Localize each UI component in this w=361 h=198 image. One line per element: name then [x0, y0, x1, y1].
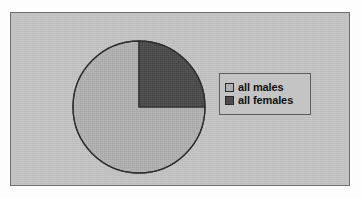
legend-label-all-males: all males: [238, 82, 284, 93]
chart-legend: all males all females: [219, 73, 311, 115]
legend-item-all-females[interactable]: all females: [225, 95, 306, 106]
pie-chart-figure: all males all females: [0, 0, 361, 198]
pie-slice-all-females[interactable]: [139, 41, 205, 107]
plot-area-frame: all males all females: [10, 12, 350, 186]
pie-chart-graphic: [63, 31, 215, 183]
legend-item-all-males[interactable]: all males: [225, 82, 306, 93]
legend-swatch-all-females: [225, 96, 234, 105]
legend-swatch-all-males: [225, 83, 234, 92]
legend-label-all-females: all females: [238, 95, 293, 106]
